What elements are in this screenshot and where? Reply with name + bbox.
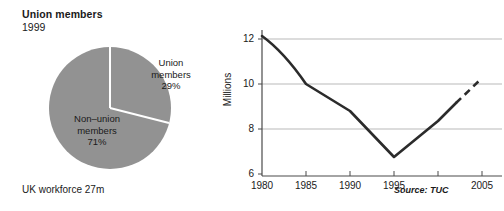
pie-slice-label-union: Union members 29% [140, 57, 202, 92]
data-line-projected [456, 80, 480, 103]
union-label-value: 29% [161, 80, 180, 91]
pie-chart-footnote: UK workforce 27m [22, 184, 104, 195]
pie-chart-year: 1999 [22, 21, 45, 33]
nonunion-label-line1: Non–union [74, 113, 120, 124]
source-note: Source: TUC [394, 185, 449, 195]
data-line-actual [262, 36, 456, 157]
line-chart-graphic [214, 0, 504, 211]
union-label-line1: Union [159, 57, 184, 68]
nonunion-label-line2: members [77, 125, 117, 136]
pie-slice-label-nonunion: Non–union members 71% [58, 113, 136, 148]
line-chart-panel: Millions 12 10 8 6 1980 1985 1990 1995 2… [214, 0, 504, 211]
union-label-line2: members [151, 69, 191, 80]
nonunion-label-value: 71% [87, 136, 106, 147]
pie-chart-title: Union members [22, 8, 103, 20]
